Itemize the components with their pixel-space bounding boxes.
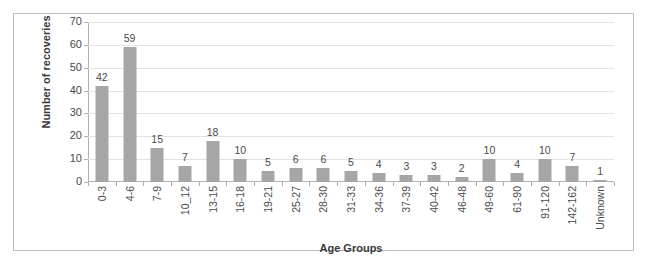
x-tick-label: 91-120 bbox=[539, 186, 551, 219]
x-tick-label: 4-6 bbox=[124, 186, 136, 201]
x-label-slot: Unknown bbox=[586, 186, 614, 242]
bar-slot: 4 bbox=[503, 22, 531, 182]
bar-slot: 42 bbox=[88, 22, 116, 182]
x-label-slot: 25-27 bbox=[282, 186, 310, 242]
x-tick-mark bbox=[614, 182, 615, 186]
bar-slot: 3 bbox=[393, 22, 421, 182]
x-label-slot: 7-9 bbox=[143, 186, 171, 242]
y-tick-label: 60 bbox=[42, 38, 82, 50]
bar-slot: 10 bbox=[476, 22, 504, 182]
x-tick-label: 34-36 bbox=[373, 186, 385, 213]
x-label-slot: 19-21 bbox=[254, 186, 282, 242]
chart-frame: Number of recoveries 010203040506070 425… bbox=[13, 13, 634, 251]
bar[interactable] bbox=[428, 175, 441, 182]
bar[interactable] bbox=[511, 173, 524, 182]
x-label-slot: 16-18 bbox=[226, 186, 254, 242]
bar[interactable] bbox=[483, 159, 496, 182]
x-tick-label: 13-15 bbox=[207, 186, 219, 213]
x-label-slot: 91-120 bbox=[531, 186, 559, 242]
bar-slot: 7 bbox=[171, 22, 199, 182]
x-label-slot: 46-48 bbox=[448, 186, 476, 242]
x-label-slot: 10_12 bbox=[171, 186, 199, 242]
x-tick-label: 10_12 bbox=[179, 186, 191, 215]
x-label-slot: 37-39 bbox=[393, 186, 421, 242]
bar[interactable] bbox=[178, 166, 191, 182]
bar[interactable] bbox=[344, 171, 357, 182]
x-axis-title: Age Groups bbox=[88, 242, 614, 254]
bar-value-label: 10 bbox=[539, 144, 551, 156]
bar-slot: 59 bbox=[116, 22, 144, 182]
bar[interactable] bbox=[538, 159, 551, 182]
bar[interactable] bbox=[289, 168, 302, 182]
bar-value-label: 42 bbox=[96, 71, 108, 83]
x-label-slot: 31-33 bbox=[337, 186, 365, 242]
bar-value-label: 15 bbox=[151, 133, 163, 145]
bar[interactable] bbox=[95, 86, 108, 182]
bar[interactable] bbox=[206, 141, 219, 182]
bar-value-label: 3 bbox=[431, 160, 437, 172]
x-tick-label: 61-90 bbox=[511, 186, 523, 213]
x-tick-label: 19-21 bbox=[262, 186, 274, 213]
bar-slot: 10 bbox=[531, 22, 559, 182]
x-label-slot: 40-42 bbox=[420, 186, 448, 242]
bar-slot: 10 bbox=[226, 22, 254, 182]
bar-value-label: 1 bbox=[597, 165, 603, 177]
x-label-slot: 13-15 bbox=[199, 186, 227, 242]
x-tick-label: 16-18 bbox=[234, 186, 246, 213]
bar-slot: 1 bbox=[586, 22, 614, 182]
y-tick-label: 70 bbox=[42, 15, 82, 27]
bar-value-label: 3 bbox=[403, 160, 409, 172]
bar-value-label: 6 bbox=[320, 153, 326, 165]
x-label-slot: 34-36 bbox=[365, 186, 393, 242]
bar-value-label: 18 bbox=[207, 126, 219, 138]
x-tick-label: 46-48 bbox=[456, 186, 468, 213]
bar[interactable] bbox=[234, 159, 247, 182]
bar-value-label: 6 bbox=[293, 153, 299, 165]
x-tick-label: 0-3 bbox=[96, 186, 108, 201]
x-label-slot: 49-60 bbox=[476, 186, 504, 242]
x-tick-label: Unknown bbox=[594, 186, 606, 230]
x-tick-label: 31-33 bbox=[345, 186, 357, 213]
bar[interactable] bbox=[317, 168, 330, 182]
y-tick-label: 40 bbox=[42, 84, 82, 96]
bar-slot: 3 bbox=[420, 22, 448, 182]
x-tick-label: 7-9 bbox=[151, 186, 163, 201]
x-label-slot: 28-30 bbox=[309, 186, 337, 242]
bar-slot: 6 bbox=[282, 22, 310, 182]
x-tick-label: 40-42 bbox=[428, 186, 440, 213]
bar[interactable] bbox=[151, 148, 164, 182]
bar-slot: 2 bbox=[448, 22, 476, 182]
bar-slot: 6 bbox=[309, 22, 337, 182]
x-tick-label: 37-39 bbox=[400, 186, 412, 213]
y-tick-label: 0 bbox=[42, 175, 82, 187]
x-tick-label: 49-60 bbox=[483, 186, 495, 213]
y-tick-label: 50 bbox=[42, 61, 82, 73]
bar-value-label: 7 bbox=[182, 151, 188, 163]
bar[interactable] bbox=[372, 173, 385, 182]
bar[interactable] bbox=[455, 177, 468, 182]
bar-slot: 18 bbox=[199, 22, 227, 182]
bar[interactable] bbox=[594, 180, 607, 182]
bar-value-label: 2 bbox=[459, 162, 465, 174]
x-label-slot: 0-3 bbox=[88, 186, 116, 242]
bar-slot: 7 bbox=[559, 22, 587, 182]
bar[interactable] bbox=[566, 166, 579, 182]
bar-value-label: 7 bbox=[570, 151, 576, 163]
bar-slot: 4 bbox=[365, 22, 393, 182]
bar-series: 42591571810566543321041071 bbox=[88, 22, 614, 182]
bar-slot: 15 bbox=[143, 22, 171, 182]
y-tick-label: 30 bbox=[42, 106, 82, 118]
bar[interactable] bbox=[123, 47, 136, 182]
bar-value-label: 59 bbox=[124, 32, 136, 44]
x-tick-label: 25-27 bbox=[290, 186, 302, 213]
bar-value-label: 5 bbox=[348, 156, 354, 168]
bar-value-label: 10 bbox=[484, 144, 496, 156]
y-tick-label: 20 bbox=[42, 129, 82, 141]
y-tick-label: 10 bbox=[42, 152, 82, 164]
x-label-slot: 61-90 bbox=[503, 186, 531, 242]
x-tick-label: 142-162 bbox=[566, 186, 578, 225]
bar[interactable] bbox=[261, 171, 274, 182]
x-tick-label: 28-30 bbox=[317, 186, 329, 213]
bar[interactable] bbox=[400, 175, 413, 182]
bar-value-label: 4 bbox=[376, 158, 382, 170]
